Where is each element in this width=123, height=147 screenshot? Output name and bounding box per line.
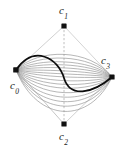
guide-line-c0-c1 xyxy=(16,26,64,70)
label-c2: c2 xyxy=(59,131,68,142)
label-c3: c3 xyxy=(101,55,110,66)
control-point-c1[interactable] xyxy=(61,23,66,28)
bezier-diagram-canvas xyxy=(0,0,123,147)
label-c0: c0 xyxy=(10,80,19,91)
control-point-c3[interactable] xyxy=(109,74,114,79)
label-c3-subscript: 3 xyxy=(106,62,110,71)
label-c1-subscript: 1 xyxy=(64,12,68,21)
control-point-c2[interactable] xyxy=(61,121,66,126)
bezier-curve-figure: c0 c1 c2 c3 xyxy=(0,0,123,147)
label-c0-subscript: 0 xyxy=(15,87,19,96)
control-point-c0[interactable] xyxy=(13,67,18,72)
label-c1: c1 xyxy=(59,5,68,16)
label-c2-subscript: 2 xyxy=(64,138,68,147)
